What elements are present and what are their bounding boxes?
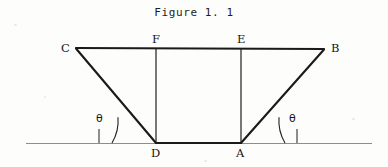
vertex-label-f: F (152, 34, 160, 46)
angle-label-left: θ (96, 113, 103, 124)
segment-cb (76, 48, 324, 49)
vertex-label-b: B (331, 43, 339, 55)
angle-arc-right (279, 117, 285, 143)
angle-label-right: θ (289, 113, 296, 124)
vertex-label-e: E (237, 34, 245, 46)
figure-canvas: Figure 1. 1 C F E B D A θ θ (0, 0, 388, 167)
vertex-label-d: D (151, 148, 160, 160)
vertex-label-a: A (236, 148, 244, 160)
segment-ba (241, 50, 324, 144)
vertex-label-c: C (61, 43, 70, 55)
angle-arc-left (112, 117, 118, 143)
segment-cd (76, 49, 156, 144)
geometry-drawing (0, 0, 388, 167)
